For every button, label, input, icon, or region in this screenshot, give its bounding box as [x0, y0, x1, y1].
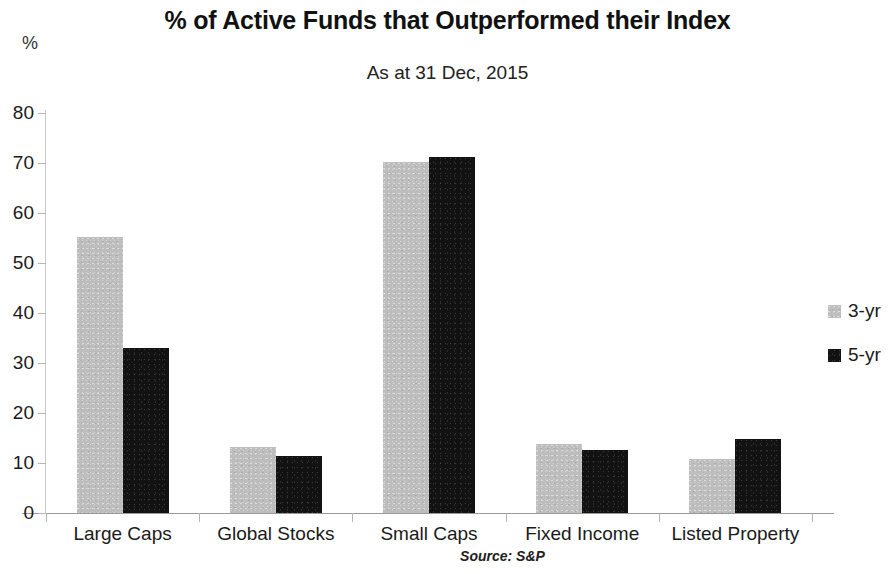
bar-5-yr: [429, 157, 475, 513]
x-axis-tick: [659, 513, 660, 522]
y-axis-tick: [38, 463, 46, 464]
bar-group: [506, 113, 659, 513]
chart-subtitle: As at 31 Dec, 2015: [0, 62, 895, 84]
bar-chart: % of Active Funds that Outperformed thei…: [0, 0, 895, 574]
bar-5-yr: [582, 450, 628, 514]
bar-group: [659, 113, 812, 513]
y-axis-tick-label: 80: [0, 102, 34, 124]
source-note: Source: S&P: [0, 548, 895, 564]
chart-title: % of Active Funds that Outperformed thei…: [0, 6, 895, 35]
y-axis-tick-label: 20: [0, 402, 34, 424]
y-axis-tick-label: 40: [0, 302, 34, 324]
y-axis-unit-label: %: [22, 33, 38, 54]
y-axis-tick-label: 70: [0, 152, 34, 174]
bar-3-yr: [383, 162, 429, 513]
legend-item: 5-yr: [828, 340, 881, 370]
bar-group: [46, 113, 199, 513]
legend-label: 3-yr: [848, 300, 881, 322]
bar-5-yr: [276, 456, 322, 514]
y-axis-tick-label: 50: [0, 252, 34, 274]
bar-5-yr: [123, 348, 169, 513]
bar-group: [199, 113, 352, 513]
legend-swatch-icon: [828, 349, 841, 362]
legend-label: 5-yr: [848, 344, 881, 366]
y-axis-tick: [38, 513, 46, 514]
y-axis-tick-label: 60: [0, 202, 34, 224]
x-axis-line: [22, 513, 834, 514]
x-axis-tick: [46, 513, 47, 522]
y-axis-tick-label: 0: [0, 502, 34, 524]
bar-3-yr: [77, 237, 123, 514]
x-axis-category-label: Global Stocks: [199, 523, 352, 545]
x-axis-category-label: Small Caps: [352, 523, 505, 545]
bar-5-yr: [735, 439, 781, 513]
x-axis-category-label: Fixed Income: [506, 523, 659, 545]
y-axis-tick-label: 30: [0, 352, 34, 374]
y-axis-tick: [38, 363, 46, 364]
plot-area: [46, 113, 812, 513]
bar-3-yr: [536, 444, 582, 514]
y-axis-tick: [38, 413, 46, 414]
x-axis-tick: [352, 513, 353, 522]
legend-item: 3-yr: [828, 296, 881, 326]
y-axis-tick: [38, 113, 46, 114]
y-axis-tick: [38, 213, 46, 214]
x-axis-category-label: Listed Property: [659, 523, 812, 545]
legend-swatch-icon: [828, 305, 841, 318]
x-axis-category-label: Large Caps: [46, 523, 199, 545]
x-axis-tick: [812, 513, 813, 522]
y-axis-tick: [38, 163, 46, 164]
y-axis-tick: [38, 263, 46, 264]
x-axis-tick: [199, 513, 200, 522]
y-axis-tick: [38, 313, 46, 314]
bar-group: [352, 113, 505, 513]
bar-3-yr: [689, 459, 735, 513]
chart-legend: 3-yr5-yr: [828, 296, 881, 384]
bar-3-yr: [230, 447, 276, 513]
y-axis-tick-label: 10: [0, 452, 34, 474]
x-axis-tick: [506, 513, 507, 522]
